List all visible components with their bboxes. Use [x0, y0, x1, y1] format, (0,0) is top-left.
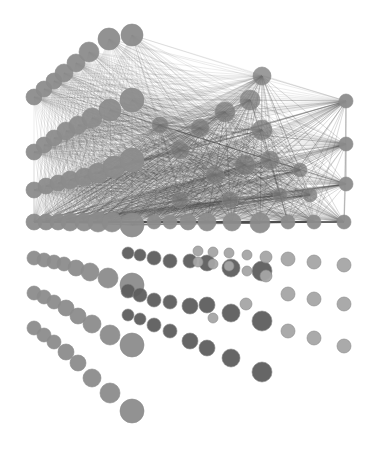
- graph-node: [208, 259, 218, 269]
- graph-node: [281, 324, 295, 338]
- graph-node: [134, 249, 146, 261]
- graph-node: [134, 313, 146, 325]
- graph-node: [122, 309, 134, 321]
- graph-node: [47, 335, 61, 349]
- graph-node: [337, 339, 351, 353]
- graph-node: [83, 369, 101, 387]
- graph-node: [273, 188, 287, 202]
- graph-node: [303, 188, 317, 202]
- graph-node: [193, 246, 203, 256]
- graph-node: [337, 297, 351, 311]
- graph-node: [240, 298, 252, 310]
- graph-node: [339, 177, 353, 191]
- graph-node: [339, 94, 353, 108]
- graph-node: [281, 252, 295, 266]
- graph-node: [120, 148, 144, 172]
- graph-node: [147, 251, 161, 265]
- graph-node: [79, 42, 99, 62]
- graph-node: [163, 215, 177, 229]
- graph-node: [120, 88, 144, 112]
- graph-node: [224, 261, 234, 271]
- graph-node: [70, 355, 86, 371]
- graph-node: [293, 163, 307, 177]
- graph-node: [58, 344, 74, 360]
- graph-node: [199, 340, 215, 356]
- graph-node: [208, 313, 218, 323]
- graph-node: [281, 287, 295, 301]
- graph-node: [208, 247, 218, 257]
- graph-node: [337, 215, 351, 229]
- graph-node: [122, 247, 134, 259]
- graph-node: [222, 304, 240, 322]
- graph-node: [163, 295, 177, 309]
- graph-node: [121, 24, 143, 46]
- graph-node: [215, 102, 235, 122]
- graph-node: [152, 117, 168, 133]
- graph-node: [100, 383, 120, 403]
- graph-node: [260, 270, 272, 282]
- graph-node: [98, 28, 120, 50]
- graph-node: [224, 248, 234, 258]
- graph-node: [147, 318, 161, 332]
- graph-node: [191, 119, 209, 137]
- graph-node: [281, 215, 295, 229]
- graph-node: [182, 333, 198, 349]
- graph-node: [120, 213, 144, 237]
- graph-node: [339, 137, 353, 151]
- graph-node: [250, 213, 270, 233]
- graph-node: [100, 325, 120, 345]
- graph-node: [83, 315, 101, 333]
- graph-node: [147, 293, 161, 307]
- graph-node: [133, 288, 147, 302]
- graph-node: [307, 331, 321, 345]
- graph-node: [223, 213, 241, 231]
- graph-node: [261, 151, 279, 169]
- graph-node: [222, 192, 238, 208]
- graph-node: [222, 349, 240, 367]
- graph-node: [337, 258, 351, 272]
- graph-node: [198, 213, 216, 231]
- graph-node: [307, 255, 321, 269]
- graph-node: [193, 257, 203, 267]
- graph-node: [252, 311, 272, 331]
- graph-node: [99, 99, 121, 121]
- graph-node: [206, 166, 224, 184]
- graph-node: [307, 215, 321, 229]
- graph-node: [253, 67, 271, 85]
- network-graph-canvas: [0, 0, 376, 451]
- graph-node: [242, 250, 252, 260]
- graph-node: [182, 298, 198, 314]
- graph-node: [98, 268, 118, 288]
- graph-node: [147, 215, 161, 229]
- graph-node: [120, 333, 144, 357]
- graph-node: [307, 292, 321, 306]
- node-group-hub-top: [253, 67, 271, 85]
- graph-node: [180, 214, 196, 230]
- graph-node: [199, 297, 215, 313]
- graph-node: [235, 155, 255, 175]
- graph-node: [242, 266, 252, 276]
- graph-node: [252, 362, 272, 382]
- graph-node: [81, 263, 99, 281]
- graph-node: [171, 141, 189, 159]
- graph-node: [240, 90, 260, 110]
- graph-node: [252, 120, 272, 140]
- graph-node: [102, 212, 122, 232]
- graph-node: [163, 254, 177, 268]
- graph-node: [163, 324, 177, 338]
- graph-node: [260, 251, 272, 263]
- graph-node: [120, 399, 144, 423]
- graph-node: [172, 192, 188, 208]
